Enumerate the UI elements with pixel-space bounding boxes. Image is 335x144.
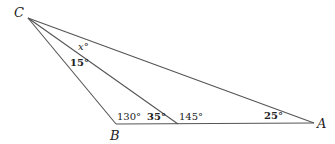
angle-label-cbd: 130° [117, 111, 141, 122]
vertex-label-c: C [14, 5, 24, 20]
angle-label-cda: 145° [179, 111, 203, 122]
vertex-label-b: B [109, 128, 120, 143]
angle-label-bcd: 15° [70, 57, 89, 68]
angle-label-cab: 25° [264, 110, 283, 121]
angle-label-x: x° [78, 41, 89, 52]
triangle-diagram: C B A x° 15° 130° 35° 145° 25° [0, 0, 335, 144]
angle-label-cdb: 35° [147, 111, 166, 122]
segment-ba [116, 123, 314, 124]
vertex-label-a: A [316, 116, 326, 131]
